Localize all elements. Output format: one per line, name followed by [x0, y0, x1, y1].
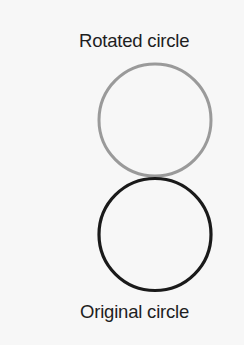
original-circle — [99, 179, 211, 291]
circle-diagram — [0, 0, 244, 345]
rotated-circle — [99, 64, 211, 176]
original-circle-label: Original circle — [80, 301, 189, 323]
